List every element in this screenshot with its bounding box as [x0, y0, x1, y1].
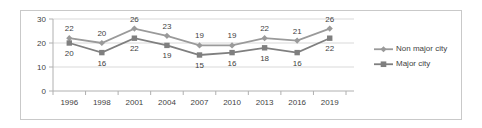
x-axis-tick-label: 2013 — [256, 98, 274, 107]
x-axis-tick-label: 1998 — [93, 98, 111, 107]
data-label: 19 — [228, 31, 237, 40]
x-axis-tick-label: 2001 — [125, 98, 143, 107]
diamond-marker — [327, 26, 333, 32]
legend-square-marker — [381, 61, 387, 67]
legend-entry[interactable]: Major city — [374, 59, 430, 68]
data-label: 16 — [97, 59, 106, 68]
data-label: 19 — [162, 51, 171, 60]
x-axis-tick-label: 2007 — [191, 98, 209, 107]
chart-container: 0102030199619982001200420072010201320162… — [20, 10, 462, 120]
data-label: 26 — [325, 15, 334, 24]
diamond-marker — [262, 35, 268, 41]
data-label: 22 — [325, 44, 334, 53]
data-label: 16 — [228, 59, 237, 68]
data-label: 20 — [97, 29, 106, 38]
square-marker — [99, 50, 104, 55]
x-axis-tick-label: 2019 — [321, 98, 339, 107]
data-label: 21 — [293, 27, 302, 36]
square-marker — [294, 50, 299, 55]
data-label: 23 — [162, 22, 171, 31]
square-marker — [197, 52, 202, 57]
x-axis-tick-label: 2004 — [158, 98, 176, 107]
data-label: 22 — [260, 24, 269, 33]
square-marker — [164, 43, 169, 48]
square-marker — [327, 36, 332, 41]
x-axis-tick-label: 1996 — [60, 98, 78, 107]
data-label: 22 — [130, 44, 139, 53]
data-label: 16 — [293, 59, 302, 68]
line-chart: 0102030199619982001200420072010201320162… — [21, 11, 461, 119]
square-marker — [67, 40, 72, 45]
legend-label: Non major city — [396, 44, 447, 53]
square-marker — [229, 50, 234, 55]
y-axis-tick-label: 0 — [42, 87, 47, 96]
square-marker — [132, 36, 137, 41]
diamond-marker — [131, 26, 137, 32]
x-axis-tick-label: 2016 — [288, 98, 306, 107]
x-axis-tick-label: 2010 — [223, 98, 241, 107]
data-label: 19 — [195, 31, 204, 40]
diamond-marker — [164, 33, 170, 39]
legend-entry[interactable]: Non major city — [374, 44, 447, 53]
data-label: 26 — [130, 15, 139, 24]
square-marker — [262, 45, 267, 50]
data-label: 20 — [65, 49, 74, 58]
legend-label: Major city — [396, 59, 430, 68]
legend-diamond-marker — [380, 46, 386, 52]
data-label: 22 — [65, 24, 74, 33]
y-axis-tick-label: 30 — [37, 15, 46, 24]
y-axis-tick-label: 10 — [37, 63, 46, 72]
data-label: 15 — [195, 61, 204, 70]
diamond-marker — [99, 40, 105, 46]
data-label: 18 — [260, 54, 269, 63]
y-axis-tick-label: 20 — [37, 39, 46, 48]
